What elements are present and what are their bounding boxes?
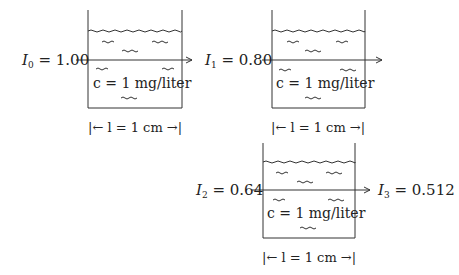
cell-1-liquid-surface (88, 30, 182, 32)
concentration-label-3: c = 1 mg/liter (267, 205, 365, 221)
cell-3-liquid-surface (263, 161, 355, 163)
cell-2-liquid-surface (272, 30, 365, 32)
concentration-label-2: c = 1 mg/liter (276, 75, 374, 91)
concentration-label-1: c = 1 mg/liter (93, 75, 191, 91)
path-length-label-1: |← l = 1 cm →| (88, 120, 182, 135)
path-length-label-2: |← l = 1 cm →| (271, 120, 365, 135)
intensity-i1-label: I1 = 0.80 (205, 53, 272, 70)
diagram-graphics (0, 0, 459, 275)
cell-1-walls (88, 10, 182, 108)
intensity-i2-label: I2 = 0.64 (196, 183, 263, 200)
intensity-i0-label: I0 = 1.00 (22, 53, 89, 70)
path-length-label-3: |← l = 1 cm →| (262, 250, 356, 265)
intensity-i3-label: I3 = 0.512 (378, 183, 455, 200)
beer-lambert-diagram: I0 = 1.00 c = 1 mg/liter |← l = 1 cm →| … (0, 0, 459, 275)
cell-2-walls (272, 10, 365, 108)
